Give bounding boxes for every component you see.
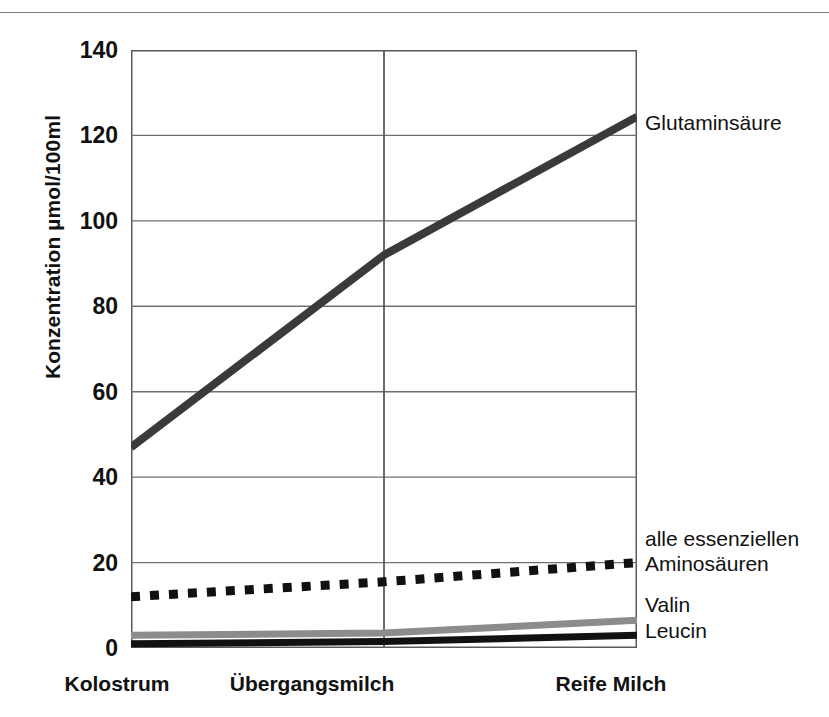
series-label-alle-essenziellen: alle essenziellen Aminosäuren	[645, 527, 799, 577]
y-tick-0: 0	[52, 635, 118, 662]
plot-area	[131, 50, 637, 648]
y-tick-140: 140	[52, 37, 118, 64]
series-label-glutaminsaeure: Glutaminsäure	[645, 111, 782, 136]
y-tick-100: 100	[52, 208, 118, 235]
page-top-rule	[0, 12, 829, 13]
y-tick-20: 20	[52, 550, 118, 577]
chart-svg	[131, 50, 637, 648]
y-tick-120: 120	[52, 122, 118, 149]
series-label-alle-essenziellen-line2: Aminosäuren	[645, 552, 799, 577]
x-tick-uebergangsmilch: Übergangsmilch	[230, 672, 395, 696]
x-tick-reife-milch: Reife Milch	[556, 672, 667, 696]
series-label-valin: Valin	[645, 593, 690, 618]
y-tick-80: 80	[52, 293, 118, 320]
y-tick-40: 40	[52, 464, 118, 491]
series-label-alle-essenziellen-line1: alle essenziellen	[645, 527, 799, 552]
chart-figure: Konzentration µmol/100ml 140 120 100 80 …	[0, 0, 829, 717]
series-label-leucin: Leucin	[645, 619, 707, 644]
y-axis-tick-labels: 140 120 100 80 60 40 20 0	[52, 0, 118, 717]
x-tick-kolostrum: Kolostrum	[65, 672, 170, 696]
y-tick-60: 60	[52, 379, 118, 406]
